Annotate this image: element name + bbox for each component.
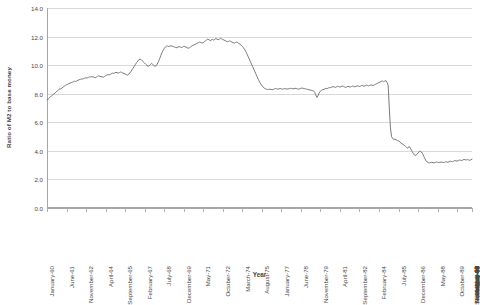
x-axis-tick-label: April-15 (474, 266, 480, 287)
y-axis-tick-label: 6.0 (34, 119, 43, 126)
y-axis-tick-label: 8.0 (34, 90, 43, 97)
x-axis-tick-label: March-74 (245, 266, 251, 292)
x-axis-title: Year (47, 271, 472, 278)
y-axis-tick-label: 10.0 (31, 62, 43, 69)
x-axis-tick-mark (472, 208, 473, 212)
plot-area (47, 8, 472, 208)
y-axis-tick-label: 0.0 (34, 205, 43, 212)
y-axis-tick-labels: 14.012.010.08.06.04.02.00.0 (16, 0, 46, 215)
x-axis-tick-labels: January-60June-61November-62April-64Sept… (47, 212, 472, 268)
y-axis-tick-label: 4.0 (34, 147, 43, 154)
y-axis-tick-label: 14.0 (31, 5, 43, 12)
series-line-m2-base-ratio (47, 8, 472, 208)
y-axis-tick-label: 12.0 (31, 33, 43, 40)
y-axis-title-label: Ratio of M2 to base money (5, 67, 12, 148)
y-axis-tick-label: 2.0 (34, 176, 43, 183)
y-axis-title: Ratio of M2 to base money (0, 0, 16, 215)
